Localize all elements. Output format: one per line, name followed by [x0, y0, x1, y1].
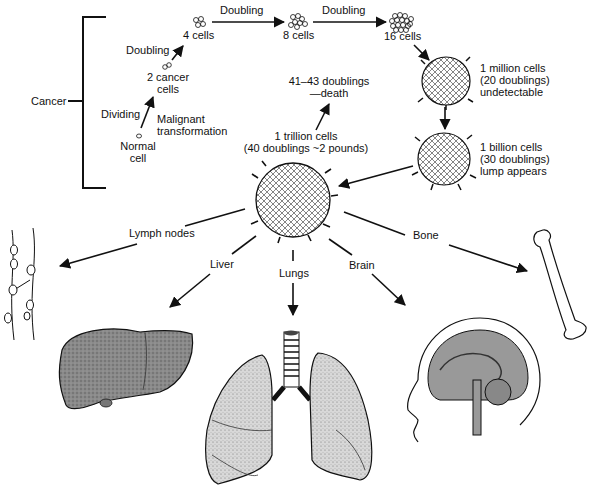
- liver-label: Liver: [210, 258, 234, 270]
- bone-icon: [534, 230, 586, 339]
- eight-cells-icon: [289, 14, 308, 30]
- sixteen-cells-label: 16 cells: [384, 30, 421, 42]
- normal-cell-label: Normal cell: [114, 140, 162, 164]
- malignant-transformation-label: Malignant transformation: [157, 113, 227, 137]
- doubling-label-1: Doubling: [126, 44, 169, 56]
- brain-label: Brain: [349, 259, 375, 271]
- liver-icon: [59, 329, 192, 409]
- two-cancer-cells-label: 2 cancer cells: [138, 71, 198, 95]
- normal-cell-icon: [137, 134, 142, 138]
- dividing-label: Dividing: [101, 108, 140, 120]
- cancer-bracket: [68, 17, 106, 188]
- brain-icon: [408, 318, 540, 442]
- four-cells-label: 4 cells: [183, 29, 214, 41]
- lymph-nodes-icon: [5, 228, 36, 340]
- trillion-cells-label: 1 trillion cells (40 doublings ~2 pounds…: [226, 130, 386, 154]
- tumor-trillion-icon: [251, 161, 338, 243]
- lungs-label: Lungs: [279, 267, 309, 279]
- two-cells-icon: [163, 63, 172, 70]
- doubling-label-3: Doubling: [322, 4, 365, 16]
- eight-cells-label: 8 cells: [283, 29, 314, 41]
- lymph-nodes-label: Lymph nodes: [129, 227, 195, 239]
- growth-arrows: [141, 22, 445, 186]
- lungs-icon: [206, 331, 372, 485]
- million-cells-label: 1 million cells (20 doublings) undetecta…: [480, 62, 550, 98]
- tumor-million-icon: [418, 57, 473, 110]
- tumor-billion-icon: [412, 133, 476, 190]
- four-cells-icon: [194, 17, 206, 28]
- bone-label: Bone: [413, 229, 439, 241]
- billion-cells-label: 1 billion cells (30 doublings) lump appe…: [480, 141, 550, 177]
- cancer-label: Cancer: [31, 95, 66, 107]
- doubling-label-2: Doubling: [220, 4, 263, 16]
- death-label: 41–43 doublings —death: [284, 75, 374, 99]
